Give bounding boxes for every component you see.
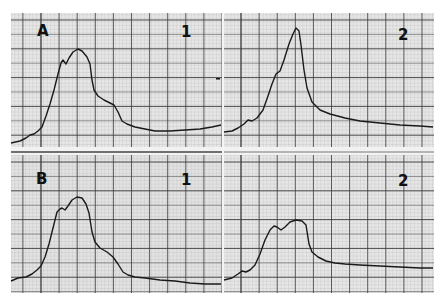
row-separator-right [224,147,434,155]
figure: A 1 2 B 1 2 [0,0,446,300]
panel-b1: B 1 [11,155,222,293]
row-separator-left [11,147,222,155]
panel-b1-row-label: B [36,170,47,188]
panel-a1: A 1 [11,13,222,147]
panel-b2: 2 [224,155,434,293]
column-gap [222,13,224,293]
panel-b2-col-label: 2 [398,172,408,190]
panel-a1-row-label: A [37,22,49,40]
panel-a2: 2 [224,13,434,147]
panel-a1-col-label: 1 [181,23,191,41]
panel-a1-tick-mark [216,78,220,80]
panel-b1-col-label: 1 [181,171,191,189]
panel-a2-col-label: 2 [398,26,408,44]
